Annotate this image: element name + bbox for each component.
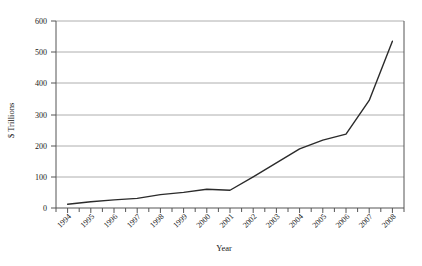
x-tick-label: 2004 [287,212,305,230]
x-tick-label: 1994 [55,212,73,230]
y-tick-label: 600 [35,17,47,26]
y-tick-label: 500 [35,48,47,57]
x-tick-label: 2006 [334,212,352,230]
x-tick-label: 2003 [264,212,282,230]
x-tick-label: 1998 [148,212,166,230]
x-tick-label: 2008 [380,212,398,230]
y-tick-label: 0 [43,204,47,213]
gridlines [56,21,404,177]
line-chart: 600 500 400 300 200 100 0 $ Trillions 19… [0,0,422,266]
y-tick-label: 400 [35,79,47,88]
x-tick-label: 2001 [218,212,236,230]
y-tick-labels: 600 500 400 300 200 100 0 [35,17,47,213]
y-tick-label: 300 [35,111,47,120]
y-tick-label: 200 [35,142,47,151]
x-tick-label: 1995 [79,212,97,230]
y-axis-title: $ Trillions [6,103,16,138]
x-tick-label: 1996 [102,212,120,230]
x-tick-label: 2002 [241,212,259,230]
x-tick-label: 2000 [195,212,213,230]
x-tick-marks [56,208,404,213]
x-axis-title: Year [216,243,232,253]
data-series-line [68,41,393,204]
y-tick-marks [51,21,56,208]
x-tick-labels: 1994199519961997199819992000200120022003… [55,212,397,230]
axis-frame [56,21,404,208]
chart-container: 600 500 400 300 200 100 0 $ Trillions 19… [0,0,422,266]
x-tick-label: 2005 [311,212,329,230]
x-tick-label: 1997 [125,212,143,230]
x-tick-label: 2007 [357,212,375,230]
y-tick-label: 100 [35,173,47,182]
x-tick-label: 1999 [171,212,189,230]
